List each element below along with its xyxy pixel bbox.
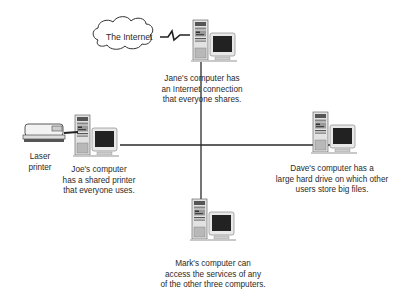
mark-computer-icon [190, 199, 236, 241]
jane-computer-icon [191, 20, 237, 62]
mark-caption: Mark's computer can access the services … [150, 259, 276, 291]
internet-cloud-label: The Internet [106, 32, 152, 42]
dave-caption: Dave's computer has a large hard drive o… [270, 164, 394, 196]
joe-caption: Joe's computer has a shared printer that… [55, 165, 143, 197]
dave-computer-icon [311, 112, 357, 154]
laser-printer-icon [23, 124, 78, 142]
network-diagram [0, 0, 406, 301]
jane-caption: Jane's computer has an Internet connecti… [150, 74, 254, 106]
joe-computer-icon [73, 115, 119, 157]
